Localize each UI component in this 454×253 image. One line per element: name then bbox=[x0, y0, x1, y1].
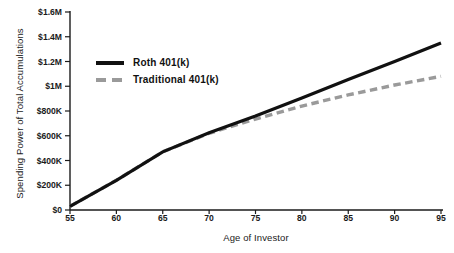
series-line-traditional bbox=[70, 76, 441, 206]
chart-legend: Roth 401(k) Traditional 401(k) bbox=[96, 54, 219, 88]
dashed-line-swatch bbox=[96, 74, 124, 86]
spending-power-line-chart: Spending Power of Total Accumulations $0… bbox=[0, 0, 454, 253]
x-tick-label: 80 bbox=[282, 213, 322, 223]
x-axis-title: Age of Investor bbox=[70, 232, 442, 243]
legend-item-traditional: Traditional 401(k) bbox=[96, 71, 219, 88]
x-tick-label: 70 bbox=[189, 213, 229, 223]
x-tick-label: 65 bbox=[143, 213, 183, 223]
x-tick-label: 85 bbox=[328, 213, 368, 223]
x-tick-label: 60 bbox=[96, 213, 136, 223]
x-tick-label: 95 bbox=[421, 213, 454, 223]
x-tick-label: 90 bbox=[375, 213, 415, 223]
legend-label-traditional: Traditional 401(k) bbox=[133, 74, 219, 85]
x-tick-label: 55 bbox=[50, 213, 90, 223]
solid-line-swatch bbox=[96, 57, 124, 69]
x-tick-label: 75 bbox=[236, 213, 276, 223]
legend-item-roth: Roth 401(k) bbox=[96, 54, 219, 71]
legend-label-roth: Roth 401(k) bbox=[133, 57, 190, 68]
